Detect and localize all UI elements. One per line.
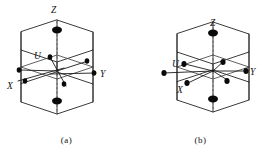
x-axis-atom (184, 80, 189, 86)
axis-label-x: X (6, 81, 14, 91)
y-axis-atom (243, 68, 248, 74)
left-upper-atom (17, 67, 22, 73)
axis-label-z: Z (210, 18, 216, 28)
left-mid-atom (161, 70, 166, 76)
atoms-a (17, 27, 97, 105)
lower-right-atom (224, 78, 229, 84)
axis-label-z: Z (51, 5, 57, 15)
figure-a: Z U Y X (a) (0, 0, 133, 149)
axis-u-line (185, 64, 213, 71)
x-axis-atom (23, 78, 28, 84)
figure-b-svg: Z U Y X (134, 0, 267, 135)
u-axis-atom (48, 54, 53, 60)
bottom-face-center-atom (52, 98, 62, 105)
figure-b: Z U Y X (b) (134, 0, 267, 149)
top-face-center-atom (208, 30, 218, 37)
top-face-center-atom (52, 27, 62, 34)
axis-label-u: U (172, 59, 180, 69)
axis-left-connector (20, 70, 57, 71)
figure-panel: Z U Y X (a) (0, 0, 267, 149)
figure-b-caption: (b) (134, 135, 267, 145)
lower-center-atom (62, 81, 67, 87)
figure-a-svg: Z U Y X (0, 0, 133, 135)
axis-label-u: U (34, 51, 42, 61)
bottom-face-center-atom (208, 96, 218, 103)
y-axis-atom (92, 70, 97, 76)
upper-right-atom (220, 59, 225, 65)
axis-right-connector (57, 61, 88, 71)
figure-a-caption: (a) (0, 135, 133, 145)
u-axis-atom (181, 61, 186, 67)
axis-label-y: Y (100, 69, 107, 79)
axis-label-x: X (176, 85, 184, 95)
right-upper-atom (85, 58, 90, 64)
axis-label-y: Y (250, 67, 257, 77)
